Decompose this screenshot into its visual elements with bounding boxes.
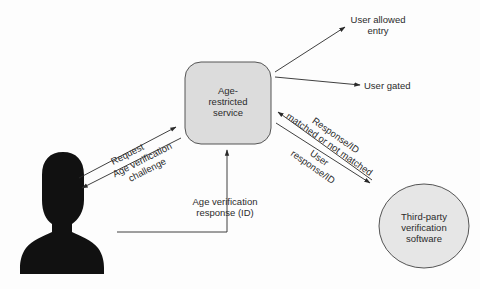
third-party-label: Third-party verification software (389, 211, 459, 244)
allowed-arrow (275, 27, 345, 72)
third-party-label-line2: verification (389, 222, 459, 233)
user-silhouette-icon (20, 152, 104, 274)
service-label-line1: Age- (193, 85, 263, 96)
allowed-label: User allowed entry (343, 14, 413, 36)
third-party-label-line3: software (389, 233, 459, 244)
service-label-line3: service (193, 107, 263, 118)
gated-label: User gated (364, 80, 410, 91)
response-label-line1: Age verification (180, 196, 270, 207)
diagram-graphics (0, 0, 480, 289)
gated-arrow (275, 77, 360, 85)
allowed-label-line2: entry (343, 25, 413, 36)
service-label-line2: restricted (193, 96, 263, 107)
response-label: Age verification response (ID) (180, 196, 270, 218)
response-label-line2: response (ID) (180, 207, 270, 218)
allowed-label-line1: User allowed (343, 14, 413, 25)
service-label: Age- restricted service (193, 85, 263, 118)
age-verification-diagram: Age- restricted service Third-party veri… (0, 0, 480, 289)
third-party-label-line1: Third-party (389, 211, 459, 222)
